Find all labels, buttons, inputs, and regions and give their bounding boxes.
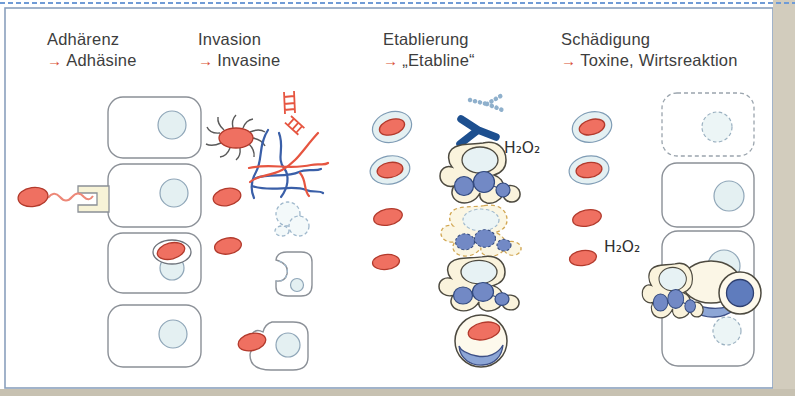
nucleus (160, 179, 188, 207)
host-cell (108, 97, 201, 158)
macrophage-nucleus (727, 280, 754, 307)
page-edge-right (773, 0, 795, 396)
column-header-invasion: Invasion →Invasine (198, 29, 280, 71)
column-subtitle: Invasine (217, 51, 280, 69)
h2o2-label-damage: H₂O₂ (604, 238, 640, 256)
nucleus (714, 181, 744, 211)
column-subtitle: Toxine, Wirtsreaktion (580, 51, 737, 69)
macrophage-icon (455, 315, 507, 367)
column-title: Etablierung (383, 29, 475, 50)
host-cell (108, 233, 201, 293)
arrow-icon: → (198, 52, 213, 69)
column-subtitle: Adhäsine (66, 51, 136, 69)
nucleus (158, 111, 186, 139)
column-title: Schädigung (561, 29, 738, 50)
arrow-icon: → (47, 52, 62, 69)
column-subtitle: „Etabline“ (402, 51, 475, 69)
column-header-damage: Schädigung →Toxine, Wirtsreaktion (561, 29, 738, 71)
nucleus (159, 320, 187, 348)
column-title: Invasion (198, 29, 280, 50)
column-header-adherence: Adhärenz →Adhäsine (47, 29, 137, 71)
arrow-icon: → (383, 52, 398, 69)
arrow-icon: → (561, 52, 576, 69)
h2o2-label-establishment: H₂O₂ (504, 139, 540, 157)
nucleus (702, 112, 732, 142)
page-edge-bottom (0, 389, 795, 396)
nucleus (713, 317, 741, 345)
column-title: Adhärenz (47, 29, 137, 50)
column-header-establishment: Etablierung →„Etabline“ (383, 29, 475, 71)
infection-stages-figure: Adhärenz →Adhäsine Invasion →Invasine Et… (0, 0, 795, 396)
